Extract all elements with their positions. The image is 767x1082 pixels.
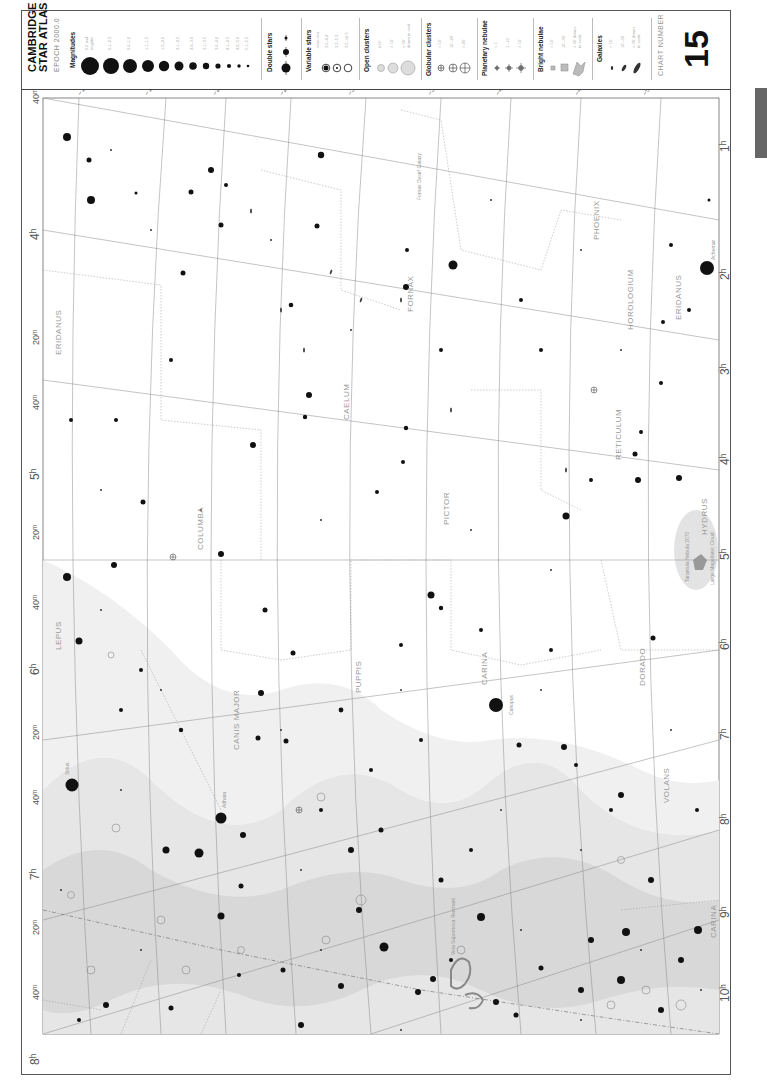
variable-stars-heading: Variable stars — [305, 30, 312, 72]
dec-tick-label: −45° — [573, 90, 586, 97]
constellation-volans: VOLANS — [662, 768, 671, 803]
constellation-mon: MON — [44, 1070, 53, 1075]
svg-text:brighter: brighter — [89, 36, 94, 50]
ra-tick-label: 9ʰ — [718, 906, 731, 918]
dec-labels-top: −10° −15° −20° −25° −30° −35° −40° −45° … — [76, 90, 654, 97]
bright-nebulae-heading: Bright nebulae — [537, 26, 544, 72]
galaxies-heading: Galaxies — [596, 35, 603, 62]
svg-text:2.1–2.5: 2.1–2.5 — [175, 36, 180, 50]
dec-tick-label: −40° — [494, 90, 507, 97]
bright-nebula-symbols: < 10' 10'–30' > 30' drawn to scale — [545, 24, 589, 80]
constellation-puppis: PUPPIS — [354, 661, 363, 693]
dec-tick-label: −50° — [641, 90, 654, 97]
ra-tick-label: 20ᵐ — [31, 920, 41, 935]
svg-text:to scale: to scale — [636, 33, 641, 48]
svg-text:4.1–4.5: 4.1–4.5 — [225, 36, 230, 50]
constellation-pictor: PICTOR — [442, 492, 451, 525]
dec-tick-label: −35° — [426, 90, 439, 97]
ra-tick-label: 3ʰ — [718, 363, 731, 375]
constellation-eridanus-2: ERIDANUS — [674, 275, 683, 320]
svg-text:5.1–5.5: 5.1–5.5 — [244, 36, 249, 50]
svg-text:10'–20': 10'–20' — [449, 35, 454, 48]
ra-tick-label: 40ᵐ — [31, 790, 41, 805]
galaxy-symbols: < 10' 10'–30' > 30' drawn to scale — [604, 24, 648, 80]
constellation-caelum: CAELUM — [342, 384, 351, 420]
dec-tick-label: −25° — [278, 90, 291, 97]
svg-text:3.6–4.0: 3.6–4.0 — [214, 36, 219, 50]
svg-text:> 10': > 10' — [517, 39, 522, 48]
svg-text:< 10': < 10' — [549, 39, 554, 48]
svg-text:1.1–1.5: 1.1–1.5 — [144, 36, 149, 50]
svg-text:> 20': > 20' — [461, 39, 466, 48]
constellation-mensa: MENSA — [720, 659, 729, 690]
epoch-label: EPOCH 2000.0 — [53, 18, 60, 72]
ra-tick-label: 20ᵐ — [31, 725, 41, 740]
svg-text:3.5–<6.5: 3.5–<6.5 — [344, 32, 349, 48]
open-cluster-symbols: ≤10' > 10' > 30' drawn to scale — [371, 24, 417, 80]
svg-text:3.0–4.2: 3.0–4.2 — [324, 34, 329, 48]
svg-text:0.6–1.0: 0.6–1.0 — [126, 36, 131, 50]
ra-tick-label: 40ᵐ — [31, 595, 41, 610]
label-adhara: Adhara — [221, 792, 227, 808]
constellation-fornax: FORNAX — [406, 276, 415, 313]
magnitude-scale: 0.0 and brighter 0.1–0.5 0.6–1.0 1.1–1.5… — [76, 28, 256, 78]
svg-text:≤10': ≤10' — [377, 40, 382, 48]
svg-text:> 10': > 10' — [389, 39, 394, 48]
svg-text:10'–30': 10'–30' — [561, 35, 566, 48]
constellation-horologium: HOROLOGIUM — [626, 269, 635, 330]
svg-text:< 10': < 10' — [437, 39, 442, 48]
legend-divider — [533, 18, 534, 80]
ra-tick-label: 40ᵐ — [31, 985, 41, 1000]
legend-divider — [301, 18, 302, 80]
svg-text:< 1': < 1' — [493, 41, 498, 48]
svg-text:drawn to scale: drawn to scale — [406, 24, 411, 48]
svg-text:to scale: to scale — [577, 33, 582, 48]
constellation-dorado: DORADO — [638, 648, 647, 686]
double-stars-heading: Double stars — [266, 33, 273, 72]
svg-text:3.1–3.5: 3.1–3.5 — [202, 36, 207, 50]
legend-divider — [421, 18, 422, 80]
label-canopus: Canopus — [508, 694, 514, 715]
legend-divider — [359, 18, 360, 80]
atlas-title-line2: STAR ATLAS — [38, 2, 49, 72]
ra-tick-label: 1ʰ — [718, 140, 731, 152]
ra-tick-label: 10ʰ — [718, 984, 731, 1002]
legend-divider — [592, 18, 593, 80]
ra-tick-label: 20ᵐ — [31, 330, 41, 345]
constellation-columba: COLUMBA — [196, 507, 205, 550]
ra-tick-label: 40ᵐ — [31, 90, 41, 104]
ra-tick-label: 7ʰ — [718, 728, 731, 740]
svg-text:10'–30': 10'–30' — [620, 35, 625, 48]
planetary-nebulae-heading: Planetary nebulae — [481, 20, 488, 76]
constellation-lepus: LEPUS — [54, 621, 63, 650]
constellation-phoenix: PHOENIX — [592, 200, 601, 240]
ra-tick-label: 7ʰ — [28, 868, 42, 880]
legend-divider — [477, 18, 478, 80]
legend-divider — [261, 18, 262, 80]
label-sirius: Sirius — [64, 762, 70, 775]
ra-tick-label: 6ʰ — [28, 663, 42, 675]
magnitudes-heading: Magnitudes — [69, 32, 76, 68]
dec-tick-label: −15° — [143, 90, 156, 97]
legend-divider — [651, 18, 652, 80]
constellation-canis-major: CANIS MAJOR — [232, 690, 241, 750]
ra-tick-label: 5ʰ — [28, 468, 42, 480]
star-chart[interactable]: ERIDANUS FORNAX PHOENIX HOROLOGIUM ERIDA… — [21, 90, 731, 1075]
ra-tick-label: 20ᵐ — [31, 525, 41, 540]
star-chart-svg[interactable]: ERIDANUS FORNAX PHOENIX HOROLOGIUM ERIDA… — [21, 90, 731, 1075]
svg-text:1.6–2.0: 1.6–2.0 — [160, 36, 165, 50]
constellation-reticulum: RETICULUM — [614, 409, 623, 460]
svg-text:< 10': < 10' — [608, 39, 613, 48]
ra-tick-label: 40ᵐ — [31, 395, 41, 410]
dec-tick-label: −10° — [76, 90, 89, 97]
dec-tick-label: −20° — [211, 90, 224, 97]
globular-clusters-heading: Globular clusters — [425, 23, 432, 76]
chapter-tab-marker — [755, 88, 767, 158]
legend-strip: CAMBRIDGE STAR ATLAS EPOCH 2000.0 Magnit… — [21, 10, 731, 90]
label-vela-snr: Vela Supernova Remnant — [450, 897, 456, 955]
label-fornax-dwarf: Fornax Dwarf Galaxy — [416, 153, 422, 200]
ra-tick-label: 4ʰ — [28, 228, 42, 240]
label-lmc: Large Magellanic Cloud — [709, 532, 715, 585]
globular-cluster-symbols: < 10' 10'–20' > 20' — [433, 24, 473, 80]
constellation-hydrus-2: HYDRUS — [700, 498, 709, 535]
